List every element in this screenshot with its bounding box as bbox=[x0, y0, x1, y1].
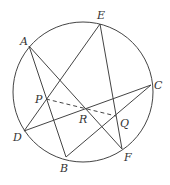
point-label-e: E bbox=[96, 9, 105, 22]
segment-dc bbox=[24, 85, 151, 131]
geometry-diagram: AECDBFPRQ bbox=[0, 0, 170, 185]
point-label-b: B bbox=[59, 162, 68, 175]
point-label-a: A bbox=[19, 35, 28, 48]
point-label-f: F bbox=[123, 151, 132, 164]
segments bbox=[24, 24, 151, 157]
point-label-c: C bbox=[154, 79, 163, 92]
segment-af bbox=[29, 46, 122, 149]
point-label-d: D bbox=[12, 131, 22, 144]
point-label-q: Q bbox=[120, 117, 129, 130]
point-label-r: R bbox=[78, 113, 87, 126]
point-label-p: P bbox=[34, 93, 43, 106]
point-labels: AECDBFPRQ bbox=[12, 9, 163, 175]
segment-ef bbox=[100, 24, 122, 149]
